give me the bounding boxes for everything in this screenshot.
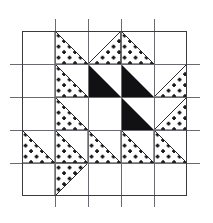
quilt-block-svg bbox=[0, 0, 213, 223]
quilt-block-diagram bbox=[0, 0, 213, 223]
